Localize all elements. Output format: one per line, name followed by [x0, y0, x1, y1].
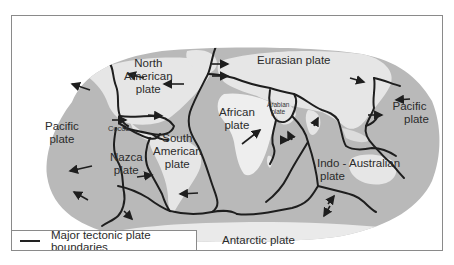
legend: Major tectonic plate boundaries — [12, 230, 197, 251]
label-line: plate — [124, 83, 173, 96]
label-line: South — [153, 132, 202, 145]
label-line: Pacific — [390, 100, 429, 113]
label-line: Nazca — [110, 151, 143, 164]
label-line: American — [153, 145, 202, 158]
legend-label: Major tectonic plate boundaries — [51, 229, 196, 251]
label-nazca-plate: Nazca plate — [110, 151, 143, 177]
label-north-american-plate: North American plate — [124, 57, 173, 96]
label-line: plate — [219, 119, 255, 132]
label-eurasian-plate: Eurasian plate — [257, 54, 331, 67]
label-line: plate — [110, 164, 143, 177]
label-line: African — [219, 106, 255, 119]
label-line: American — [124, 70, 173, 83]
label-indo-australian-plate: Indo - Australian plate — [317, 157, 400, 183]
label-line: North — [124, 57, 173, 70]
label-line: Indo - Australian — [317, 157, 400, 170]
label-cocos-plate: Cocos — [108, 125, 129, 132]
label-line: Cocos — [108, 125, 129, 132]
label-line: plate — [317, 170, 400, 183]
label-antarctic-plate: Antarctic plate — [222, 234, 295, 247]
label-line: plate — [390, 113, 429, 126]
label-arabian-plate: Arabian plate — [267, 101, 289, 115]
label-line: Eurasian plate — [257, 54, 331, 67]
label-south-american-plate: South American plate — [153, 132, 202, 171]
boundary-line-swatch-icon — [20, 240, 40, 242]
label-line: Arabian — [267, 101, 289, 108]
label-line: plate — [267, 108, 289, 115]
label-pacific-plate-west: Pacific plate — [45, 120, 79, 146]
label-african-plate: African plate — [219, 106, 255, 132]
label-line: plate — [45, 133, 79, 146]
label-line: Pacific — [45, 120, 79, 133]
map-frame: North American plate Eurasian plate Paci… — [11, 15, 443, 251]
label-pacific-plate-east: Pacific plate — [390, 100, 429, 126]
label-line: plate — [153, 158, 202, 171]
label-line: Antarctic plate — [222, 234, 295, 247]
